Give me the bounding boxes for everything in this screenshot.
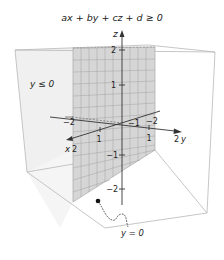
z-tick-neg1: −1 <box>106 151 118 160</box>
z-axis-label: z <box>112 29 118 39</box>
y-axis-label: y <box>180 134 187 144</box>
y-tick-1: 1 <box>146 134 151 143</box>
region-label: y ≤ 0 <box>29 79 55 89</box>
pos-y-tick-label: −2 <box>146 117 158 126</box>
x-axis-label: x <box>64 144 71 154</box>
x-tick-1: 1 <box>96 135 101 144</box>
z-tick-2: 2 <box>111 46 116 55</box>
diagram-title: ax + by + cz + d ≥ 0 <box>61 12 162 23</box>
y-tick-2: 2 <box>174 135 179 144</box>
z-tick-neg2: −2 <box>106 185 118 194</box>
halfspace-diagram: ax + by + cz + d ≥ 0 z 2 1 −1 −2 y ≤ 0 −… <box>0 0 224 260</box>
leader-line <box>98 201 128 227</box>
neg-y-tick: −1 <box>128 119 140 128</box>
x-tick-2: 2 <box>72 145 77 154</box>
plane-label: y = 0 <box>120 228 144 238</box>
neg-x-tick: −2 <box>63 118 75 127</box>
z-tick-1: 1 <box>111 81 116 90</box>
